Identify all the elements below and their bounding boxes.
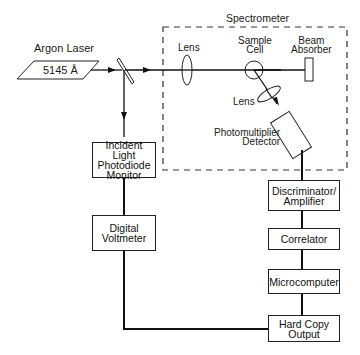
photodiode-monitor-box: Incident Light Photodiode Monitor (92, 142, 156, 178)
beam-absorber-icon (305, 58, 313, 81)
microcomputer-label: Microcomputer (269, 277, 338, 287)
lens-2-label: Lens (233, 96, 255, 107)
detector-label: Photomultiplier Detector (214, 128, 280, 146)
discriminator-amplifier-label: Discriminator/ Amplifier (272, 186, 336, 206)
wavelength-label: 5145 Å (43, 65, 78, 76)
microcomputer-box: Microcomputer (268, 269, 340, 294)
lens-1-label: Lens (178, 42, 200, 53)
discriminator-amplifier-box: Discriminator/ Amplifier (268, 180, 340, 211)
sample-cell-label: Sample Cell (238, 36, 272, 54)
correlator-label: Correlator (281, 234, 328, 244)
beam-absorber-label: Beam Absorber (291, 36, 332, 54)
digital-voltmeter-label: Digital Voltmeter (102, 223, 146, 243)
spectrometer-label: Spectrometer (226, 13, 289, 24)
correlator-box: Correlator (268, 228, 340, 250)
hard-copy-output-label: Hard Copy Output (279, 319, 329, 339)
argon-laser-label: Argon Laser (34, 43, 94, 54)
hard-copy-output-box: Hard Copy Output (268, 315, 340, 342)
beam-splitter-icon (117, 58, 134, 84)
digital-voltmeter-box: Digital Voltmeter (92, 215, 156, 251)
photodiode-monitor-label: Incident Light Photodiode Monitor (93, 140, 155, 180)
